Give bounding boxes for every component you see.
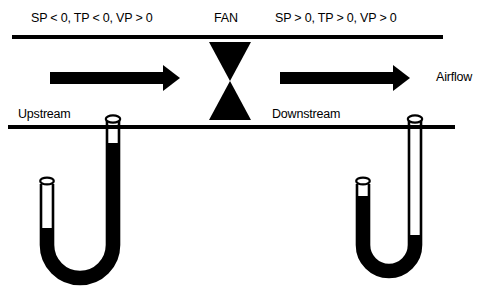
fan-upper-cone (209, 42, 251, 81)
arrow-shaft-upstream (50, 72, 163, 84)
airflow-arrow-downstream (280, 65, 410, 91)
arrow-shaft-downstream (280, 72, 393, 84)
fan-lower-cone (209, 81, 251, 120)
arrow-head-downstream (393, 65, 410, 91)
downstream-label: Downstream (272, 108, 340, 121)
manometer-inner-wall-downstream (369, 121, 409, 265)
airflow-arrow-upstream (50, 65, 180, 91)
manometer-duct-leg-cap-upstream (106, 115, 120, 122)
u-tube-manometer-upstream (40, 115, 120, 284)
downstream-conditions-label: SP > 0, TP > 0, VP > 0 (275, 12, 397, 25)
duct-top-wall (12, 35, 443, 39)
fan-pressure-diagram: SP < 0, TP < 0, VP > 0 FAN SP > 0, TP > … (0, 0, 482, 295)
u-tube-manometer-downstream (356, 115, 422, 277)
manometer-open-leg-cap-downstream (356, 178, 370, 185)
duct-bottom-wall (8, 125, 455, 129)
manometer-duct-leg-cap-downstream (408, 115, 422, 122)
upstream-label: Upstream (18, 108, 71, 121)
upstream-conditions-label: SP < 0, TP < 0, VP > 0 (31, 12, 153, 25)
manometer-inner-wall-upstream (53, 121, 107, 272)
diagram-canvas (0, 0, 482, 295)
airflow-label: Airflow (436, 71, 472, 84)
fan-label: FAN (214, 12, 238, 25)
manometer-open-leg-cap-upstream (40, 178, 54, 185)
fan-bowtie-symbol (209, 42, 251, 120)
arrow-head-upstream (163, 65, 180, 91)
